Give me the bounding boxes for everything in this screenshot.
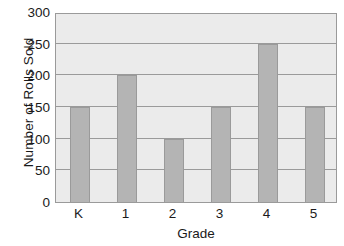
y-axis-tick-label: 150 xyxy=(14,101,50,114)
y-axis-tick-label: 200 xyxy=(14,69,50,82)
y-axis-tick-label: 50 xyxy=(14,164,50,177)
x-axis-tick-label: 5 xyxy=(290,206,337,222)
x-axis-tick-label: 1 xyxy=(102,206,149,222)
x-axis-tick-label: 3 xyxy=(196,206,243,222)
bar xyxy=(70,107,90,202)
y-axis-tick-label: 100 xyxy=(14,133,50,146)
bar xyxy=(117,75,137,202)
x-axis-tick-label: K xyxy=(55,206,102,222)
bar-chart-figure: Number of Rolls Sold 050100150200250300 … xyxy=(0,0,344,246)
y-axis-tick-label: 0 xyxy=(14,196,50,209)
bar xyxy=(211,107,231,202)
y-axis-tick-label: 250 xyxy=(14,38,50,51)
x-axis-title: Grade xyxy=(55,226,337,241)
x-axis-tick-label: 4 xyxy=(243,206,290,222)
x-axis-tick-label: 2 xyxy=(149,206,196,222)
plot-area xyxy=(55,13,337,203)
bar xyxy=(305,107,325,202)
bar xyxy=(164,139,184,202)
bars-layer xyxy=(56,14,336,202)
y-axis-tick-label-group: 050100150200250300 xyxy=(14,13,50,203)
x-axis-tick-label-group: K12345 xyxy=(55,206,337,226)
bar xyxy=(258,44,278,202)
y-axis-tick-label: 300 xyxy=(14,6,50,19)
